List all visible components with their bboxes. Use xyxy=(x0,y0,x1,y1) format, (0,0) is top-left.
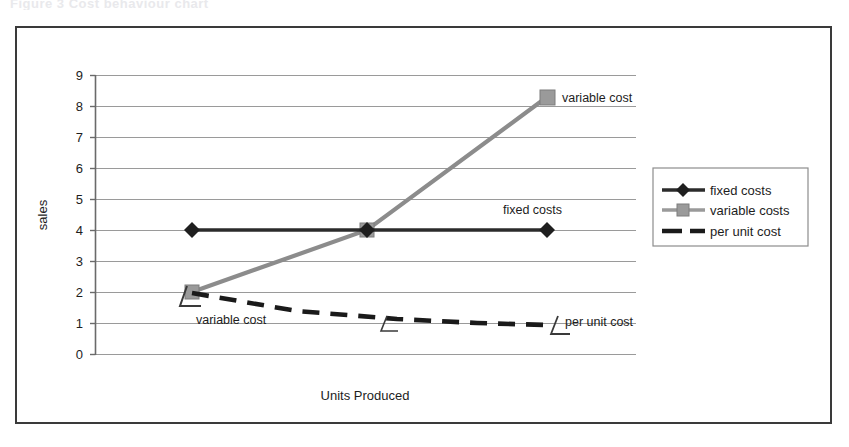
legend-item-variable-costs[interactable]: variable costs xyxy=(662,203,790,218)
chart-legend: fixed costs variable costs per unit cost xyxy=(653,168,808,246)
y-axis: 9 8 7 6 5 4 3 2 1 0 xyxy=(76,68,96,362)
top-caption-text: Figure 3 Cost behaviour chart xyxy=(10,0,430,10)
fixed-costs-marker-1 xyxy=(184,222,200,238)
y-tick-label-0: 0 xyxy=(76,347,83,362)
annotation-per-unit-cost-right: per unit cost xyxy=(565,315,634,329)
y-tick-label-1: 1 xyxy=(76,316,83,331)
y-tick-label-6: 6 xyxy=(76,161,83,176)
y-tick-label-7: 7 xyxy=(76,130,83,145)
y-tick-label-9: 9 xyxy=(76,68,83,83)
y-tick-label-5: 5 xyxy=(76,192,83,207)
variable-costs-line xyxy=(192,97,547,292)
series-variable-costs xyxy=(185,90,555,299)
legend-label-per-unit-cost: per unit cost xyxy=(710,224,781,239)
legend-marker-square-icon xyxy=(677,204,689,216)
x-axis-title: Units Produced xyxy=(321,388,410,403)
annotation-variable-cost-left: variable cost xyxy=(196,313,267,327)
cost-behaviour-line-chart: 9 8 7 6 5 4 3 2 1 0 sales Units Produced xyxy=(17,28,830,422)
variable-costs-marker-3 xyxy=(540,90,555,105)
y-axis-title: sales xyxy=(35,199,50,230)
fixed-costs-marker-3 xyxy=(539,222,555,238)
legend-label-variable-costs: variable costs xyxy=(710,203,790,218)
legend-label-fixed-costs: fixed costs xyxy=(710,183,772,198)
y-tick-label-3: 3 xyxy=(76,254,83,269)
chart-frame: 9 8 7 6 5 4 3 2 1 0 sales Units Produced xyxy=(15,26,832,424)
y-tick-label-4: 4 xyxy=(76,223,83,238)
y-tick-label-2: 2 xyxy=(76,285,83,300)
annotation-variable-cost-top: variable cost xyxy=(562,91,633,105)
annotation-fixed-costs-right: fixed costs xyxy=(503,203,562,217)
y-tick-label-8: 8 xyxy=(76,99,83,114)
